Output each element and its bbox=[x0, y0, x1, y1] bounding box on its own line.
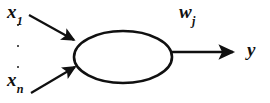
output-label-y: y bbox=[247, 40, 255, 59]
input-arrow-x1 bbox=[29, 15, 74, 40]
ellipsis-dot bbox=[17, 66, 19, 68]
input-label-xn-base: x bbox=[7, 69, 17, 90]
input-label-x1-subscript: 1 bbox=[17, 14, 23, 28]
weight-label-wj-base: w bbox=[179, 1, 192, 22]
input-arrow-xn bbox=[31, 67, 75, 93]
input-label-xn: xn bbox=[7, 70, 23, 93]
ellipsis-dot bbox=[17, 45, 19, 47]
weight-label-wj: wj bbox=[179, 2, 195, 25]
input-label-x1-base: x bbox=[7, 1, 17, 22]
input-label-xn-subscript: n bbox=[17, 82, 24, 96]
diagram-canvas bbox=[0, 0, 270, 103]
vertical-ellipsis-icon bbox=[15, 24, 21, 68]
input-label-x1: x1 bbox=[7, 2, 23, 25]
weight-label-wj-subscript: j bbox=[192, 14, 195, 28]
neuron-body-ellipse bbox=[74, 31, 172, 83]
neuron-diagram: x1 xn wj y bbox=[0, 0, 270, 103]
